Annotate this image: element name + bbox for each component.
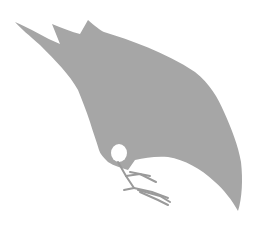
white-gap bbox=[111, 144, 127, 162]
illustration-canvas bbox=[0, 0, 270, 233]
bird-body bbox=[15, 20, 242, 211]
bird-silhouette-icon bbox=[0, 0, 270, 233]
